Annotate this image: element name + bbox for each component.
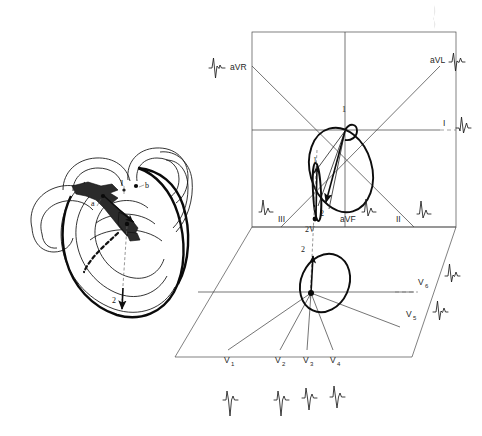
ecg-trace-aVL: [449, 53, 465, 71]
heart-label-b: b: [145, 181, 149, 190]
horizontal-loop-ellipse: [291, 246, 359, 320]
lead-label-II: II: [396, 214, 401, 224]
frontal-loop-ellipse: [299, 120, 382, 220]
horizontal-axis-V2: [280, 293, 311, 350]
lead-label-V1-text: V: [224, 355, 230, 365]
sagittal-loop-label-2V: 2V: [305, 225, 315, 234]
ecg-trace-V6: [445, 264, 460, 282]
horizontal-axis-V3: [307, 293, 311, 350]
frontal-axis-aVR-II: [252, 66, 414, 227]
heart-point-b-dot: [134, 184, 138, 188]
ecg-trace-III: [259, 200, 273, 215]
lead-label-aVR: aVR: [230, 62, 247, 72]
lead-label-V5: V 5: [406, 309, 417, 321]
activation-vector-2: [122, 288, 123, 309]
lead-label-III: III: [278, 214, 285, 224]
frontal-plane-qrs-loop: 1 2: [299, 105, 382, 220]
lead-label-V4-sub: 4: [337, 361, 341, 367]
corner-smudge-mark: [433, 5, 435, 29]
ecg-trace-V4: [330, 386, 345, 408]
horizontal-axis-V1: [228, 293, 311, 350]
lead-label-V5-sub: 5: [413, 315, 417, 321]
ecg-trace-aVR: [209, 58, 225, 78]
horizontal-plane-qrs-loop: 2: [291, 245, 359, 320]
lead-label-V6: V 6: [418, 277, 429, 289]
ecg-trace-II: [417, 201, 431, 218]
heart-origin-dot: [125, 222, 129, 226]
lead-label-V6-sub: 6: [425, 283, 429, 289]
sagittal-loop-label-1: 1: [313, 156, 317, 165]
heart-label-1: 1: [120, 179, 124, 188]
vectorcardiogram-figure: 1 a b 2: [0, 0, 482, 436]
septum-mass-tip: [126, 232, 140, 241]
ecg-trace-I: [456, 117, 471, 133]
horizontal-axis-V5: [311, 293, 400, 327]
label-leader-b: [139, 185, 144, 187]
horizontal-origin-dot: [308, 290, 314, 296]
frontal-mean-vector-arrow: [326, 131, 345, 202]
lead-reference-system-panel: 1 2 1 2V: [175, 5, 471, 416]
ecg-trace-V3: [302, 388, 317, 410]
heart-label-2: 2: [112, 296, 116, 305]
heart-top-lobe-right-inner: [137, 158, 179, 197]
lead-label-V4-text: V: [330, 355, 336, 365]
heart-outflow-lobe-left-cap: [32, 228, 73, 252]
sagittal-projection-sliver: 1 2V: [305, 150, 323, 300]
lead-label-V5-text: V: [406, 309, 412, 319]
ecg-trace-V2: [274, 391, 289, 416]
lead-label-V2-sub: 2: [282, 361, 286, 367]
ecg-trace-V1: [223, 391, 238, 416]
heart-lv-spiral-inner: [76, 192, 167, 297]
lead-label-I: I: [443, 118, 445, 128]
lead-label-aVL: aVL: [430, 55, 445, 65]
lead-label-V1-sub: 1: [231, 361, 235, 367]
lead-label-V2-text: V: [275, 355, 281, 365]
frontal-plane-frame: [252, 32, 456, 227]
lead-label-V3-text: V: [303, 355, 309, 365]
lead-label-V6-text: V: [418, 277, 424, 287]
figure-root: 1 a b 2: [0, 0, 482, 436]
heart-cross-section-panel: 1 a b 2: [31, 148, 192, 317]
frontal-loop-label-1: 1: [342, 105, 346, 114]
heart-apical-band: [95, 205, 164, 278]
sagittal-origin-dot: [313, 217, 318, 222]
horizontal-loop-label-2: 2: [301, 245, 305, 254]
lead-label-aVF: aVF: [340, 214, 356, 224]
heart-outflow-lobe-left-cap2: [42, 234, 57, 248]
heart-point-a-dot: [101, 194, 105, 198]
horizontal-plane-frame: [175, 227, 456, 357]
ecg-trace-V5: [433, 301, 448, 320]
frontal-axis-aVL-III: [281, 66, 440, 227]
lead-label-V3-sub: 3: [310, 361, 314, 367]
heart-label-a: a: [91, 199, 95, 208]
ecg-trace-aVF: [362, 199, 376, 216]
horizontal-axis-V4: [311, 293, 333, 350]
frontal-plane-rect: [252, 32, 456, 227]
conduction-dashed-path: [84, 233, 118, 272]
